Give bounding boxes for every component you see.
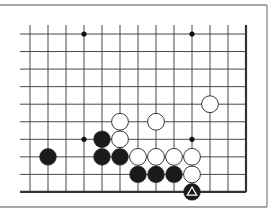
white-stone (148, 148, 165, 165)
star-point-icon (81, 137, 86, 142)
star-point-icon (189, 31, 194, 36)
go-board (0, 0, 271, 215)
white-stone (130, 148, 147, 165)
black-stone (112, 148, 129, 165)
black-stone (40, 148, 57, 165)
white-stone (202, 96, 219, 113)
white-stone (166, 148, 183, 165)
black-stone (166, 166, 183, 183)
white-stone (184, 166, 201, 183)
white-stone (148, 113, 165, 130)
black-stone (94, 131, 111, 148)
black-stone (94, 148, 111, 165)
star-point-icon (189, 137, 194, 142)
white-stone (112, 131, 129, 148)
black-stone (130, 166, 147, 183)
white-stone (112, 113, 129, 130)
black-stone (148, 166, 165, 183)
star-point-icon (81, 31, 86, 36)
white-stone (184, 148, 201, 165)
